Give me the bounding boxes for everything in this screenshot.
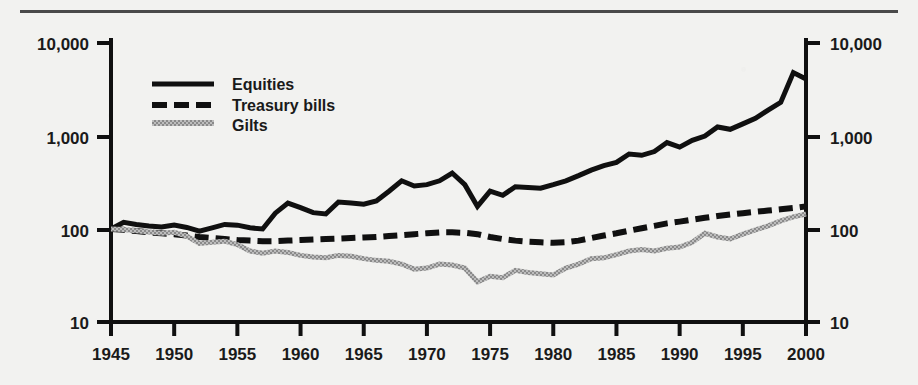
x-tick-label-1990: 1990 bbox=[661, 345, 699, 364]
legend-label-gilts: Gilts bbox=[232, 117, 268, 134]
x-tick-label-1960: 1960 bbox=[282, 345, 320, 364]
chart-page: 10,000 1,000 100 10 10,000 1,000 100 10 … bbox=[0, 0, 918, 385]
legend-label-treasury-bills: Treasury bills bbox=[232, 97, 335, 114]
y-tick-label-right-10000: 10,000 bbox=[830, 35, 882, 54]
textured-line-swatch bbox=[152, 120, 214, 126]
legend-label-equities: Equities bbox=[232, 76, 294, 93]
x-tick-label-1950: 1950 bbox=[155, 345, 193, 364]
y-tick-label-right-10: 10 bbox=[830, 314, 849, 333]
x-tick-label-1965: 1965 bbox=[345, 345, 383, 364]
x-tick-label-1975: 1975 bbox=[471, 345, 509, 364]
y-tick-label-left-1000: 1,000 bbox=[46, 129, 89, 148]
x-tick-label-1995: 1995 bbox=[724, 345, 762, 364]
y-tick-label-left-10000: 10,000 bbox=[37, 35, 89, 54]
x-tick-label-1955: 1955 bbox=[218, 345, 256, 364]
x-tick-label-1970: 1970 bbox=[408, 345, 446, 364]
x-tick-label-1985: 1985 bbox=[598, 345, 636, 364]
y-tick-label-right-1000: 1,000 bbox=[830, 129, 873, 148]
y-tick-label-right-100: 100 bbox=[830, 222, 858, 241]
x-tick-label-1980: 1980 bbox=[534, 345, 572, 364]
legend: Equities Treasury bills Gilts bbox=[152, 76, 335, 134]
y-tick-label-left-100: 100 bbox=[61, 222, 89, 241]
x-tick-label-1945: 1945 bbox=[92, 345, 130, 364]
series-lines bbox=[111, 73, 806, 282]
x-tick-label-2000: 2000 bbox=[787, 345, 825, 364]
x-axis-ticks: 1945195019551960196519701975198019851990… bbox=[92, 320, 825, 364]
series-line-equities bbox=[111, 73, 806, 231]
y-tick-label-left-10: 10 bbox=[70, 314, 89, 333]
series-line-gilts bbox=[111, 214, 806, 282]
line-chart: 10,000 1,000 100 10 10,000 1,000 100 10 … bbox=[0, 0, 918, 385]
